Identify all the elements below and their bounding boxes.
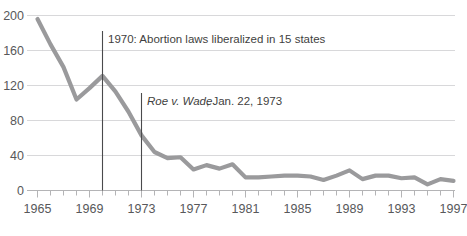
y-tick-label-0: 0 [17,184,24,198]
x-tick-label-1993: 1993 [388,202,416,216]
y-tick-label-80: 80 [10,114,24,128]
x-tick-label-1985: 1985 [284,202,312,216]
line-chart: 200 160 120 80 40 0 1965 1969 1973 1977 … [0,0,467,236]
annotation-label-1970: 1970: Abortion laws liberalized in 15 st… [108,33,326,45]
y-tick-label-40: 40 [10,149,24,163]
x-tick-label-1997: 1997 [440,202,467,216]
annotation-label-roe-v-wade: Roe v. Wade , Jan. 22, 1973 [147,95,282,107]
chart-container: 200 160 120 80 40 0 1965 1969 1973 1977 … [0,0,467,236]
y-tick-label-120: 120 [3,79,24,93]
x-tick-label-1981: 1981 [232,202,260,216]
x-tick-label-1965: 1965 [24,202,52,216]
x-tick-label-1989: 1989 [336,202,364,216]
x-tick-label-1973: 1973 [128,202,156,216]
annotation-roe-rest-part: , Jan. 22, 1973 [206,95,282,107]
x-tick-label-1977: 1977 [180,202,208,216]
y-tick-label-160: 160 [3,44,24,58]
y-tick-label-200: 200 [3,9,24,23]
x-axis-labels: 1965 1969 1973 1977 1981 1985 1989 1993 … [24,202,467,216]
annotation-roe-italic-part: Roe v. Wade [147,95,212,107]
x-tick-label-1969: 1969 [76,202,104,216]
